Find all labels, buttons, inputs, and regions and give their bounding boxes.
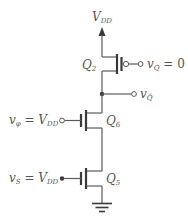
transistor-q5: [60, 168, 102, 203]
q-bar-output-label: vQ̄: [140, 87, 153, 102]
q5-label: Q5: [106, 172, 121, 187]
transistor-q2: [102, 54, 143, 94]
ground-icon: [92, 204, 112, 212]
q2-label: Q2: [82, 58, 97, 73]
s-input-terminal[interactable]: [60, 176, 64, 180]
q-bar-output-terminal[interactable]: [132, 92, 137, 97]
q-input-terminal[interactable]: [138, 62, 143, 67]
transistor-q6: [60, 110, 102, 131]
phi-input-label: vφ = VDD: [9, 113, 59, 128]
circuit-schematic: VDD Q2 vQ = 0 vQ̄ Q6 vφ = VDD: [0, 0, 188, 219]
vdd-label: VDD: [92, 10, 112, 25]
q6-label: Q6: [106, 114, 121, 129]
vdd-arrow-icon: [99, 27, 106, 57]
phi-input-terminal[interactable]: [60, 118, 65, 123]
q-bar-node: [100, 92, 137, 97]
s-input-label: vS = VDD: [9, 171, 59, 186]
q-input-label: vQ = 0: [147, 57, 185, 72]
pmos-bubble-icon: [123, 61, 128, 66]
